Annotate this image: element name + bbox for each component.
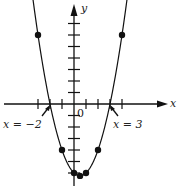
y-axis-label: y: [81, 3, 87, 14]
x-axis-arrow-icon: [157, 101, 168, 108]
origin-label: 0: [77, 108, 84, 119]
data-point: [35, 32, 41, 38]
root-right-arrowhead-icon: [110, 105, 115, 111]
data-point: [119, 32, 125, 38]
data-point: [83, 170, 89, 176]
root-left-arrowhead-icon: [45, 105, 50, 111]
data-point: [71, 170, 77, 176]
data-point: [59, 147, 65, 153]
data-point: [77, 173, 83, 179]
root-right-label: x = 3: [113, 119, 142, 130]
parabola-plot: [0, 0, 179, 187]
y-axis-arrow-icon: [71, 4, 78, 16]
data-point: [95, 147, 101, 153]
x-axis-label: x: [170, 98, 176, 109]
root-left-label: x = −2: [3, 119, 42, 130]
